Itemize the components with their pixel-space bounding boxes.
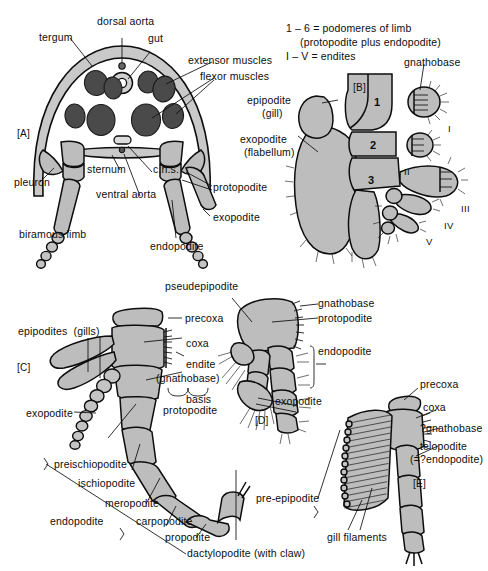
label-epipodites-gills: epipodites (gills) [18,325,100,337]
label-ischiopodite: ischiopodite [78,477,135,489]
label-protopodite-d: protopodite [318,312,372,324]
panel-e-tag: [E] [413,478,426,490]
label-precoxa-e: precoxa [420,378,458,390]
label-exopodite-d: exopodite [275,395,322,407]
label-coxa-c: coxa [186,337,209,349]
endite-IV: IV [444,220,454,231]
label-exopodite-c: exopodite [26,407,73,419]
label-telopodite-sub: (=?endopodite) [410,453,483,465]
label-exopodite-b: exopodite [240,133,287,145]
endite-I: I [448,123,451,134]
panel-a-tag: [A] [17,128,30,140]
label-biramous-limb: biramous limb [19,228,86,240]
panel-b-tag: [B] [353,82,366,94]
key-line-1: 1 – 6 = podomeres of limb [286,22,411,34]
label-precoxa-c: precoxa [185,312,223,324]
label-pseudepipodite: pseudepipodite [165,280,238,292]
label-gut: gut [148,32,163,44]
key-line-3: I – V = endites [286,50,356,62]
label-tergum: tergum [39,31,73,43]
podomere-2: 2 [370,139,376,152]
label-flexor-muscles: flexor muscles [200,70,269,82]
label-protopodite-c: protopodite [163,404,217,416]
label-pleuron: pleuron [14,176,50,188]
endite-II: II [404,166,410,177]
label-gill-filaments: gill filaments [327,531,387,543]
label-endopodite-c: endopodite [50,515,103,527]
label-preischiopodite: preischiopodite [54,458,127,470]
label-extensor-muscles: extensor muscles [188,54,272,66]
label-endopodite-d: endopodite [318,345,371,357]
label-ventral-aorta: ventral aorta [96,188,156,200]
label-cns: c.n.s. [153,163,179,175]
label-gnathobase-b: gnathobase [404,56,460,68]
label-dorsal-aorta: dorsal aorta [97,15,154,27]
label-telopodite: telopodite [420,440,467,452]
label-endite-c: endite [186,358,216,370]
label-propodite: propodite [165,531,210,543]
label-pre-epipodite: pre-epipodite [256,492,319,504]
label-epipodite-b: epipodite [247,94,291,106]
label-protopodite-a: protopodite [213,181,267,193]
label-gnathobase-e: ?gnathobase [420,422,482,434]
label-meropodite: meropodite [105,497,159,509]
label-sternum: sternum [87,163,126,175]
label-coxa-e: coxa [423,401,446,413]
label-dactylopodite: dactylopodite (with claw) [187,547,305,559]
podomere-1: 1 [374,96,380,109]
panel-c-tag: [C] [17,362,31,374]
panel-b-artwork [285,64,468,268]
key-line-2: (protopodite plus endopodite) [300,36,441,48]
endite-III: III [461,203,470,214]
podomere-3: 3 [368,174,374,187]
figure-canvas: 1 – 6 = podomeres of limb (protopodite p… [0,0,488,571]
panel-d-artwork [218,298,326,444]
endite-V: V [426,236,433,247]
label-gnathobase-d: gnathobase [318,297,374,309]
label-exopodite-sub-b: (flabellum) [244,146,295,158]
label-endopodite-a: endopodite [150,240,203,252]
panel-d-tag: [D] [255,415,269,427]
label-endite-sub-c: (gnathobase) [156,372,220,384]
label-exopodite-a: exopodite [213,211,260,223]
label-carpopodite: carpopodite [136,515,193,527]
label-epipodite-sub-b: (gill) [262,107,283,119]
